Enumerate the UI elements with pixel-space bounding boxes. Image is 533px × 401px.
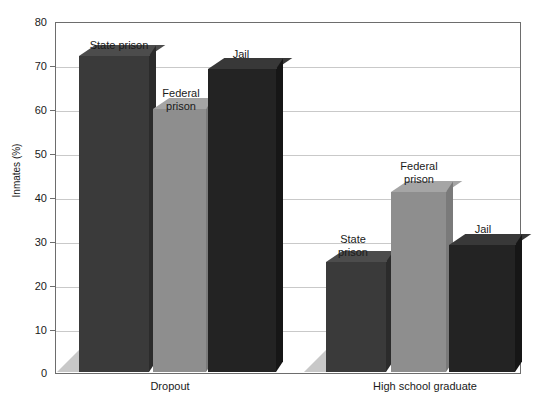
bar-hsgrad-jail[interactable] (449, 245, 515, 372)
bar-side-face (276, 59, 283, 372)
bar-side-face (515, 235, 522, 372)
bar-chart: Inmates (%) 80 70 60 50 40 30 20 10 0 (0, 0, 533, 401)
y-tick-label-40: 40 (21, 193, 47, 204)
y-axis-title: Inmates (%) (11, 111, 22, 231)
bar-front-face (326, 262, 386, 372)
y-tick-label-80: 80 (21, 17, 47, 28)
x-category-label-high-school-graduate: High school graduate (345, 380, 505, 392)
y-tick-label-70: 70 (21, 61, 47, 72)
bar-front-face (449, 245, 515, 372)
bar-label-hsgrad-federal-prison: Federal prison (384, 160, 454, 186)
bar-front-face (153, 109, 206, 372)
bar-front-face (391, 192, 446, 372)
y-tick-label-50: 50 (21, 149, 47, 160)
bar-hsgrad-federal-prison[interactable] (391, 192, 446, 372)
bar-label-dropout-state-prison: State prison (64, 39, 174, 52)
bar-dropout-federal-prison[interactable] (153, 109, 206, 372)
y-tick-label-20: 20 (21, 281, 47, 292)
bar-label-hsgrad-state-prison: State prison (318, 233, 388, 259)
bar-dropout-jail[interactable] (208, 69, 276, 372)
y-tick-label-10: 10 (21, 325, 47, 336)
bar-label-hsgrad-jail: Jail (448, 223, 518, 236)
x-category-label-dropout: Dropout (110, 380, 230, 392)
bar-front-face (79, 56, 149, 372)
plot-area: State prison Federal prison Jail State p… (55, 22, 521, 374)
bar-dropout-state-prison[interactable] (79, 56, 149, 372)
y-tick-label-30: 30 (21, 237, 47, 248)
bar-label-dropout-jail: Jail (206, 48, 276, 61)
bar-hsgrad-state-prison[interactable] (326, 262, 386, 372)
y-tick-label-0: 0 (21, 368, 47, 379)
bar-label-dropout-federal-prison: Federal prison (146, 87, 216, 113)
bar-front-face (208, 69, 276, 372)
y-tick-label-60: 60 (21, 105, 47, 116)
